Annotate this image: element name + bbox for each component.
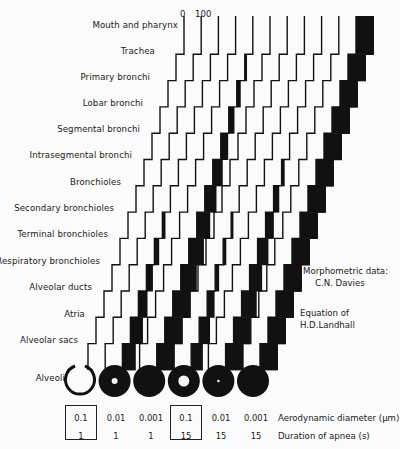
deposition-fill	[191, 344, 203, 371]
deposition-fill	[250, 265, 263, 292]
alveolus-4	[168, 365, 200, 397]
alveolus-disk	[133, 365, 165, 397]
morphometric-line1: Morphometric data:	[303, 265, 388, 277]
airway-label: Alveolar ducts	[29, 282, 92, 292]
diameter-value: 0.01	[206, 413, 236, 423]
deposition-fill	[356, 16, 374, 55]
deposition-fill	[189, 238, 204, 265]
alveolus-3	[133, 365, 165, 397]
airway-label: Lobar bronchi	[83, 98, 143, 108]
deposition-fill	[199, 317, 210, 344]
deposition-fill	[138, 291, 147, 318]
alveolus-hole	[178, 376, 189, 387]
deposition-fill	[274, 186, 280, 213]
airway-label: Terminal bronchioles	[17, 229, 108, 239]
alveolus-5	[202, 365, 234, 397]
deposition-fill	[284, 265, 302, 292]
scale-max-label: 100	[195, 9, 211, 19]
apnea-value: 15	[241, 431, 271, 441]
deposition-fill	[229, 107, 235, 134]
deposition-fill	[165, 317, 183, 344]
diameter-row-label: Aerodynamic diameter (μm)	[278, 413, 399, 423]
deposition-fill	[292, 238, 310, 265]
deposition-fill	[276, 291, 294, 318]
alveolus-1	[66, 366, 95, 394]
alveolus-ring	[66, 366, 95, 394]
deposition-fill	[242, 291, 257, 318]
apnea-value: 1	[66, 431, 96, 441]
alveolus-6	[237, 365, 269, 397]
deposition-fill	[205, 186, 217, 213]
airway-label: Alveoli	[36, 373, 65, 383]
diameter-value: 0.01	[101, 413, 131, 423]
apnea-value: 15	[206, 431, 236, 441]
deposition-fill	[332, 107, 350, 134]
deposition-fill	[173, 291, 191, 318]
deposition-fill	[258, 238, 269, 265]
morphometric-line2: C.N. Davies	[303, 277, 388, 289]
diameter-value: 0.1	[66, 413, 96, 423]
airway-label: Trachea	[121, 46, 155, 56]
deposition-fill	[181, 265, 197, 292]
alveolus-hole	[217, 380, 220, 383]
airway-label: Alveolar sacs	[20, 335, 78, 345]
deposition-fill	[197, 212, 210, 239]
deposition-fill	[146, 265, 153, 292]
deposition-fill	[122, 344, 135, 371]
deposition-fill	[260, 344, 278, 371]
diameter-value: 0.001	[241, 413, 271, 423]
airway-label: Atria	[64, 309, 85, 319]
equation-line2: H.D.Landhall	[300, 319, 355, 331]
deposition-fill	[266, 212, 274, 239]
deposition-fill	[213, 160, 223, 187]
deposition-fill	[207, 291, 214, 318]
apnea-value: 1	[101, 431, 131, 441]
scale-min-label: 0	[180, 9, 185, 19]
diameter-value: 0.001	[136, 413, 166, 423]
equation-note: Equation of H.D.Landhall	[300, 307, 355, 331]
apnea-row-label: Duration of apnea (s)	[278, 431, 370, 441]
deposition-fill	[348, 54, 366, 81]
deposition-fill	[268, 317, 286, 344]
deposition-fill	[324, 133, 342, 160]
airway-label: Intrasegmental bronchi	[30, 150, 133, 160]
deposition-fill	[308, 186, 326, 213]
deposition-fill	[221, 133, 228, 160]
apnea-value: 1	[136, 431, 166, 441]
airway-label: Segmental bronchi	[57, 124, 140, 134]
morphometric-note: Morphometric data: C.N. Davies	[303, 265, 388, 289]
apnea-value: 15	[171, 431, 201, 441]
diameter-value: 0.1	[171, 413, 201, 423]
alveolus-disk	[237, 365, 269, 397]
airway-label: Respiratory bronchioles	[0, 256, 100, 266]
deposition-fill	[154, 238, 159, 265]
airway-label: Secondary bronchioles	[14, 203, 114, 213]
airway-label: Primary bronchi	[80, 72, 150, 82]
deposition-fill	[226, 344, 244, 371]
alveolus-hole	[112, 378, 118, 384]
deposition-fill	[340, 81, 358, 108]
deposition-fill	[157, 344, 175, 371]
airway-label: Mouth and pharynx	[92, 20, 178, 30]
deposition-fill	[300, 212, 318, 239]
airway-label: Bronchioles	[70, 177, 121, 187]
deposition-fill	[316, 160, 334, 187]
deposition-fill	[234, 317, 251, 344]
equation-line1: Equation of	[300, 307, 355, 319]
deposition-fill	[130, 317, 143, 344]
alveolus-2	[99, 365, 131, 397]
